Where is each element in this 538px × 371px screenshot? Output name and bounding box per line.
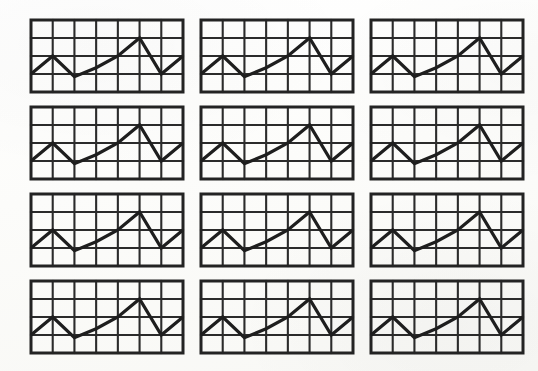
sparkline-chart (29, 18, 185, 94)
sparkline-chart (199, 18, 355, 94)
sparkline-chart (29, 105, 185, 181)
sparkline-thumbnail (22, 12, 192, 99)
sparkline-thumbnail (22, 187, 192, 274)
chart-data-line (201, 125, 353, 164)
chart-data-line (371, 299, 523, 338)
sparkline-chart (369, 18, 525, 94)
sparkline-chart (199, 192, 355, 268)
chart-data-line (31, 125, 183, 164)
sparkline-thumbnail (22, 99, 192, 186)
sparkline-thumbnail (192, 12, 362, 99)
sparkline-thumbnail (362, 187, 532, 274)
sparkline-chart (199, 105, 355, 181)
sparkline-thumbnail (192, 274, 362, 361)
chart-data-line (31, 38, 183, 77)
sparkline-thumbnail (362, 99, 532, 186)
chart-data-line (201, 212, 353, 251)
chart-data-line (371, 38, 523, 77)
sparkline-chart (369, 105, 525, 181)
chart-data-line (201, 38, 353, 77)
sparkline-thumbnail-grid (0, 0, 538, 371)
sparkline-thumbnail (192, 187, 362, 274)
sparkline-chart (29, 279, 185, 355)
chart-data-line (31, 212, 183, 251)
sparkline-chart (199, 279, 355, 355)
sparkline-chart (29, 192, 185, 268)
chart-data-line (31, 299, 183, 338)
sparkline-thumbnail (362, 12, 532, 99)
sparkline-thumbnail (192, 99, 362, 186)
sparkline-chart (369, 279, 525, 355)
sparkline-chart (369, 192, 525, 268)
chart-data-line (201, 299, 353, 338)
sparkline-thumbnail (22, 274, 192, 361)
sparkline-thumbnail (362, 274, 532, 361)
chart-data-line (371, 125, 523, 164)
chart-data-line (371, 212, 523, 251)
